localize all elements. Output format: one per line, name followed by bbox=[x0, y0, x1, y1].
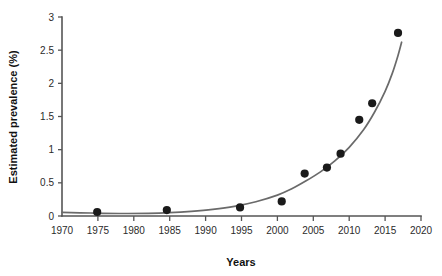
y-tick-label: 3 bbox=[48, 12, 54, 23]
x-tick-label: 2010 bbox=[338, 225, 361, 236]
x-tick-label: 1975 bbox=[87, 225, 110, 236]
y-tick-label: 1.5 bbox=[40, 111, 54, 122]
chart-figure: 00.511.522.53 19701975198019851990199520… bbox=[0, 0, 442, 276]
data-point bbox=[301, 169, 309, 177]
x-tick-label: 1970 bbox=[51, 225, 74, 236]
data-point bbox=[394, 29, 402, 37]
x-tick-label: 1985 bbox=[159, 225, 182, 236]
x-tick-label: 1990 bbox=[194, 225, 217, 236]
y-axis-tick-labels: 00.511.522.53 bbox=[40, 12, 54, 222]
y-tick-label: 2 bbox=[48, 78, 54, 89]
axis-lines bbox=[62, 17, 421, 216]
y-tick-label: 0 bbox=[48, 211, 54, 222]
x-axis-title: Years bbox=[226, 256, 255, 268]
y-axis-title: Estimated prevalence (%) bbox=[7, 50, 19, 184]
data-point bbox=[355, 116, 363, 124]
prevalence-scatter-chart: 00.511.522.53 19701975198019851990199520… bbox=[0, 0, 442, 276]
x-tick-label: 1995 bbox=[230, 225, 253, 236]
x-tick-label: 2005 bbox=[302, 225, 325, 236]
data-point bbox=[368, 99, 376, 107]
y-tick-label: 0.5 bbox=[40, 177, 54, 188]
data-point bbox=[93, 208, 101, 216]
x-tick-label: 2000 bbox=[266, 225, 289, 236]
data-point bbox=[278, 197, 286, 205]
data-point bbox=[163, 206, 171, 214]
x-tick-label: 1980 bbox=[123, 225, 146, 236]
x-tick-label: 2020 bbox=[410, 225, 433, 236]
data-point bbox=[323, 163, 331, 171]
exponential-fit-curve bbox=[62, 42, 402, 213]
x-axis-tick-labels: 1970197519801985199019952000200520102015… bbox=[51, 225, 433, 236]
y-tick-label: 1 bbox=[48, 144, 54, 155]
y-tick-label: 2.5 bbox=[40, 45, 54, 56]
data-point-markers bbox=[93, 29, 402, 216]
x-tick-label: 2015 bbox=[374, 225, 397, 236]
data-point bbox=[336, 150, 344, 158]
data-point bbox=[236, 203, 244, 211]
